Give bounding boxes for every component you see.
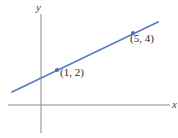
point-label-1-2: (1, 2) [60, 67, 84, 78]
data-point-marker-1-2 [55, 68, 59, 72]
plot-canvas [0, 0, 178, 138]
coordinate-plane-figure: y x (1, 2) (5, 4) [0, 0, 178, 138]
point-label-5-4: (5, 4) [130, 33, 154, 44]
y-axis-label: y [36, 2, 41, 13]
x-axis-label: x [172, 99, 177, 110]
